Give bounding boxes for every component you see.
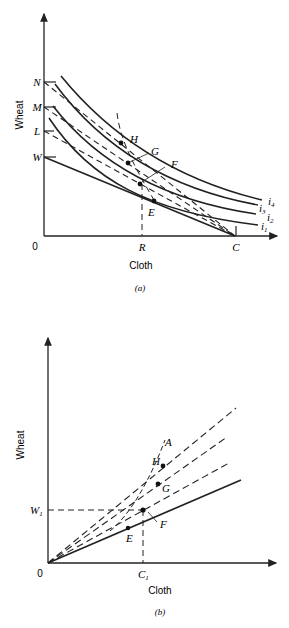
panel-b: A H G F E W1 C1 0 Cloth Wheat (b) — [15, 338, 276, 617]
label-e: E — [147, 206, 155, 218]
origin-b: 0 — [37, 568, 43, 579]
tick-c: C — [232, 241, 240, 253]
origin-a: 0 — [32, 241, 38, 252]
label-i4: i4 — [268, 195, 275, 209]
xlabel-a: Cloth — [129, 260, 152, 271]
label-e-b: E — [125, 532, 133, 544]
label-g-b: G — [162, 482, 170, 494]
panel-a: N M L W H G F E i4 i3 i2 i1 0 R C Cloth … — [14, 14, 277, 293]
label-f: F — [170, 158, 178, 170]
label-g: G — [151, 145, 159, 157]
ray-f — [48, 463, 229, 563]
label-h: H — [129, 133, 139, 145]
line-wc — [44, 157, 235, 236]
label-a: A — [164, 436, 172, 448]
ylabel-b: Wheat — [15, 430, 26, 459]
caption-b: (b) — [155, 607, 166, 617]
tick-n: N — [32, 76, 41, 88]
ylabel-a: Wheat — [14, 100, 25, 129]
ray-e — [48, 480, 241, 563]
diagram-canvas: N M L W H G F E i4 i3 i2 i1 0 R C Cloth … — [0, 0, 289, 628]
label-i2: i2 — [267, 211, 274, 225]
tick-w: W — [32, 151, 42, 163]
ray-h — [48, 408, 236, 563]
tick-r: R — [138, 241, 146, 253]
label-f-b: F — [159, 518, 167, 530]
tick-w1: W1 — [30, 504, 43, 518]
ray-g — [48, 437, 227, 563]
tick-m: M — [31, 101, 42, 113]
tick-l: L — [33, 125, 40, 137]
label-h-b: H — [151, 455, 161, 467]
curve-i4 — [61, 76, 262, 200]
xlabel-b: Cloth — [148, 585, 171, 596]
tick-c1: C1 — [138, 568, 149, 582]
caption-a: (a) — [135, 283, 146, 293]
label-i3: i3 — [259, 202, 266, 216]
